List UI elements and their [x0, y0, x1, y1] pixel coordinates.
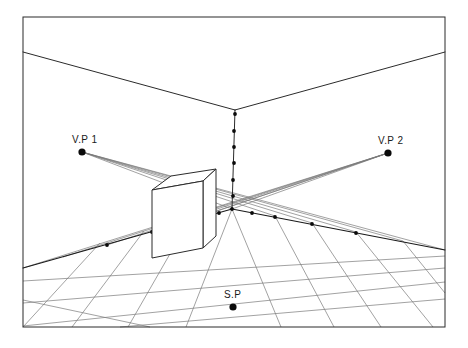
box-object — [152, 169, 216, 258]
station-point-marker: S.P — [224, 289, 241, 311]
vp2-label: V.P 2 — [378, 135, 403, 146]
measure-dot — [354, 231, 358, 235]
measure-dot — [231, 178, 235, 182]
sp-label: S.P — [224, 289, 241, 300]
vanishing-point-1-marker: V.P 1 — [72, 134, 97, 156]
measure-dot — [232, 129, 236, 133]
box-front-face — [152, 181, 203, 258]
baseboard-right — [232, 209, 445, 250]
grid-line — [120, 299, 445, 327]
measure-dot — [273, 215, 277, 219]
vp1-label: V.P 1 — [72, 134, 97, 145]
vp1-dot — [78, 148, 85, 155]
diagram-frame — [23, 17, 445, 327]
measure-dot — [232, 145, 236, 149]
box-side-face — [203, 169, 216, 248]
grid-line — [23, 256, 445, 281]
grid-line — [356, 232, 433, 327]
measure-dot — [230, 207, 234, 211]
grid-line — [275, 216, 334, 327]
ceiling-edge-left — [23, 52, 235, 110]
grid-line — [23, 300, 150, 327]
grid-line — [232, 153, 388, 209]
sp-dot — [229, 303, 236, 310]
corner-measure-dots — [230, 112, 237, 211]
ceiling-edge-right — [235, 52, 445, 110]
grid-line — [82, 152, 403, 241]
perspective-drawing-canvas: V.P 1 V.P 2 S.P — [0, 0, 468, 348]
measure-dot — [233, 112, 237, 116]
grid-line — [82, 152, 356, 232]
room-shell — [23, 52, 445, 268]
vp2-dot — [384, 149, 391, 156]
perspective-diagram: V.P 1 V.P 2 S.P — [0, 0, 468, 348]
measure-dot — [217, 211, 221, 215]
measure-dot — [310, 222, 314, 226]
vanishing-point-2-marker: V.P 2 — [378, 135, 403, 157]
grid-line — [312, 223, 381, 327]
measure-dot — [105, 243, 109, 247]
measure-dot — [250, 211, 254, 215]
measure-dot — [232, 161, 236, 165]
floor-grid — [23, 152, 445, 327]
grid-line — [193, 153, 388, 219]
measure-dot — [231, 194, 235, 198]
